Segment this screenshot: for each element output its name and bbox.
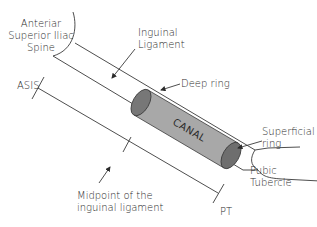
svg-text:Superior Iliac: Superior Iliac: [8, 30, 74, 41]
inguinal-canal-diagram: CANAL Anteriar Superior Iliac Spine Ingu…: [0, 0, 317, 227]
inguinal-ligament-arrow: [112, 49, 135, 78]
superficial-ring-label: Superficial ring: [262, 126, 315, 149]
svg-text:Inguinal: Inguinal: [138, 27, 178, 38]
pubic-tubercle-label: Pubic Tubercle: [250, 165, 292, 188]
svg-text:Spine: Spine: [27, 42, 55, 53]
svg-text:inguinal ligament: inguinal ligament: [77, 202, 164, 213]
svg-text:Tubercle: Tubercle: [250, 177, 292, 188]
deep-ring-arrow: [161, 84, 180, 90]
midpoint-arrow: [99, 167, 110, 183]
asis-label: ASIS: [17, 80, 40, 91]
svg-text:ring: ring: [262, 138, 281, 149]
svg-text:Superficial: Superficial: [262, 126, 315, 137]
svg-text:Midpoint of the: Midpoint of the: [77, 190, 153, 201]
svg-text:Ligament: Ligament: [138, 39, 185, 50]
svg-text:Anteriar: Anteriar: [21, 18, 62, 29]
midpoint-label: Midpoint of the inguinal ligament: [77, 190, 164, 213]
asis-full-label: Anteriar Superior Iliac Spine: [8, 18, 74, 53]
deep-ring-label: Deep ring: [181, 78, 230, 89]
inguinal-ligament-label: Inguinal Ligament: [138, 27, 185, 50]
canal-cylinder: CANAL: [127, 86, 245, 172]
svg-text:Pubic: Pubic: [250, 165, 277, 176]
pt-label: PT: [220, 206, 232, 217]
